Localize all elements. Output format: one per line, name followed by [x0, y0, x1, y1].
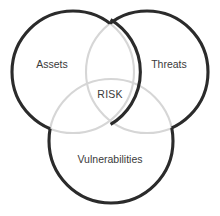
outer-arc-group: [12, 11, 208, 203]
assets-outer-arc: [12, 11, 134, 133]
inner-arc-group: [12, 11, 208, 203]
assets-lens-dark-arc: [111, 20, 141, 125]
threats-outer-arc: [86, 11, 208, 133]
venn-diagram-canvas: Assets Threats Vulnerabilities RISK: [0, 0, 220, 216]
set-label-vulnerabilities: Vulnerabilities: [78, 153, 143, 165]
set-label-threats: Threats: [151, 58, 187, 70]
intersection-label-risk: RISK: [97, 88, 122, 100]
set-label-assets: Assets: [36, 58, 68, 70]
venn-diagram-figure: Assets Threats Vulnerabilities RISK: [0, 0, 220, 216]
